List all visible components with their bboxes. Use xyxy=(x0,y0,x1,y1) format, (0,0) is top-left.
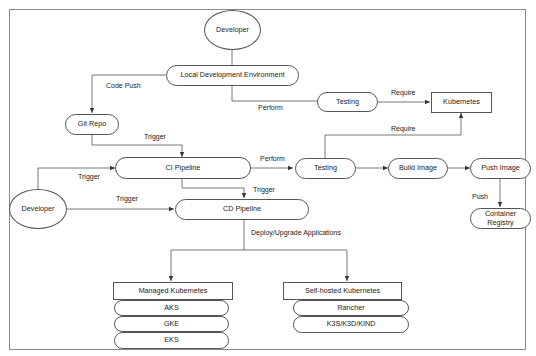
self-hosted-kubernetes-node: Self-hosted Kubernetes xyxy=(283,282,402,300)
testing-local-node: Testing xyxy=(317,92,378,112)
developer-top-node: Developer xyxy=(204,10,261,50)
push-label: Push xyxy=(472,193,488,200)
kubernetes-node: Kubernetes xyxy=(431,92,492,113)
code-push-label: Code Push xyxy=(106,82,141,89)
require-ci-label: Require xyxy=(391,125,416,132)
trigger-dev-ci-label: Trigger xyxy=(78,173,100,180)
aks-node: AKS xyxy=(114,300,229,316)
build-image-node: Build Image xyxy=(388,158,448,179)
require-local-label: Require xyxy=(391,89,416,96)
git-repo-node: Git Repo xyxy=(65,114,119,135)
eks-node: EKS xyxy=(114,332,229,349)
trigger-dev-cd-label: Trigger xyxy=(116,195,138,202)
trigger-git-ci-label: Trigger xyxy=(144,133,166,140)
managed-kubernetes-node: Managed Kubernetes xyxy=(113,282,233,300)
perform-local-label: Perform xyxy=(258,104,283,111)
trigger-ci-cd-label: Trigger xyxy=(253,186,275,193)
k3s-k3d-kind-node: K3S/K3D/KIND xyxy=(293,316,409,333)
container-registry-node: Container Registry xyxy=(470,208,531,229)
cd-pipeline-node: CD Pipeline xyxy=(175,199,309,220)
ci-pipeline-node: CI Pipeline xyxy=(115,157,251,179)
perform-ci-label: Perform xyxy=(260,155,285,162)
rancher-node: Rancher xyxy=(293,300,409,316)
deploy-upgrade-label: Deploy/Upgrade Applications xyxy=(251,229,341,236)
gke-node: GKE xyxy=(114,316,229,332)
testing-ci-node: Testing xyxy=(295,158,356,179)
developer-left-node: Developer xyxy=(9,189,67,229)
push-image-node: Push Image xyxy=(470,158,531,179)
local-dev-env-node: Local Development Environment xyxy=(166,65,299,86)
